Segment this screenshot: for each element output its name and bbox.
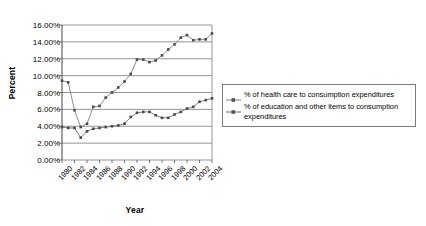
legend-item[interactable]: % of health care to consumption expendit… xyxy=(226,90,411,101)
legend-label-health-care: % of health care to consumption expendit… xyxy=(244,90,394,100)
legend-marker-education xyxy=(226,103,241,113)
legend-marker-health-care xyxy=(226,91,241,101)
legend-label-education: % of education and other items to consum… xyxy=(244,102,411,121)
chart-legend: % of health care to consumption expendit… xyxy=(222,84,416,127)
chart-container: Percent Year 0.00%2.00%4.00%6.00%8.00%10… xyxy=(0,0,426,226)
legend-item[interactable]: % of education and other items to consum… xyxy=(226,102,411,121)
